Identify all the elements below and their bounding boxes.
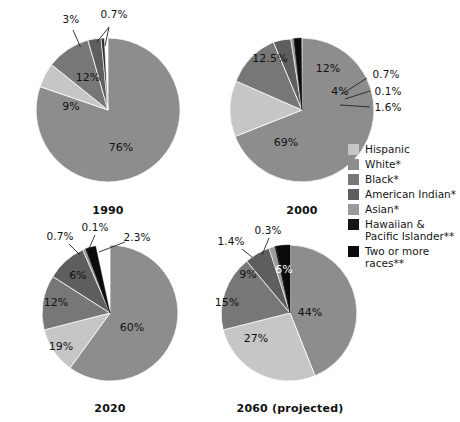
year-label-1990: 1990 [18,204,198,217]
value-2020-hawaiian: 0.1% [81,221,108,233]
value-2020-two-or-more: 2.3% [123,231,150,243]
legend-item-black[interactable]: Black* [348,173,458,185]
value-2060-asian: 1.4% [217,235,244,247]
value-2060-black: 15% [215,296,240,309]
value-2060-white: 44% [298,306,323,319]
legend-swatch-icon [348,204,359,215]
year-label-2060: 2060 (projected) [205,402,375,415]
value-2060-hawaiian: 0.3% [254,224,281,236]
value-2020-hispanic: 19% [49,340,74,353]
value-2000-white: 69% [274,136,299,149]
legend-label: Asian* [365,203,399,215]
legend-item-two-or-more-races[interactable]: Two or more races** [348,245,458,269]
value-2000-two-or-more: 1.6% [374,101,401,113]
legend-item-hawaiian-pacific-islander[interactable]: Hawaiian & Pacific Islander** [348,218,458,242]
pie-chart-figure: 9% 76% 12% 3% 0.7% 1990 [0,0,460,422]
legend-label: Hispanic [365,143,410,155]
legend-label: White* [365,158,401,170]
legend-item-american-indian[interactable]: American Indian* [348,188,458,200]
value-2020-asian: 0.7% [46,230,73,242]
value-2000-american-indian: 4% [331,85,349,98]
legend-item-white[interactable]: White* [348,158,458,170]
value-2000-asian: 0.7% [372,68,399,80]
legend-swatch-icon [348,144,359,155]
value-2020-american-indian: 6% [69,269,87,282]
legend-label: American Indian* [365,188,456,200]
value-1990-american-indian: 3% [63,13,80,25]
pie-panel-1990: 9% 76% 12% 3% 0.7% 1990 [18,20,198,200]
value-2000-black: 12% [316,62,341,75]
value-1990-asian: 0.7% [100,8,127,20]
value-1990-hispanic: 9% [62,100,80,113]
value-2000-hispanic: 12.5% [252,52,287,65]
legend-item-asian[interactable]: Asian* [348,203,458,215]
year-label-2020: 2020 [25,402,195,415]
value-1990-black: 12% [76,71,101,84]
legend-label: Two or more races** [365,245,429,269]
legend-swatch-icon [348,159,359,170]
value-1990-white: 76% [109,141,134,154]
pie-panel-2020: 19% 60% 12% 6% 0.7% 0.1% 2.3% 2020 [25,228,195,398]
value-2060-american-indian: 9% [239,268,257,281]
value-2020-white: 60% [120,321,145,334]
value-2000-hawaiian: 0.1% [374,85,401,97]
legend-swatch-icon [348,174,359,185]
value-2060-hispanic: 27% [244,332,269,345]
legend-label: Hawaiian & Pacific Islander** [365,218,454,242]
legend-swatch-icon [348,219,359,230]
legend: Hispanic White* Black* American Indian* … [348,143,458,272]
value-2060-two-or-more: 6% [275,263,293,276]
legend-label: Black* [365,173,399,185]
value-2020-black: 12% [44,296,69,309]
pie-2020-svg [25,228,195,398]
legend-item-hispanic[interactable]: Hispanic [348,143,458,155]
legend-swatch-icon [348,246,359,257]
pie-1990-svg [18,20,198,200]
legend-swatch-icon [348,189,359,200]
